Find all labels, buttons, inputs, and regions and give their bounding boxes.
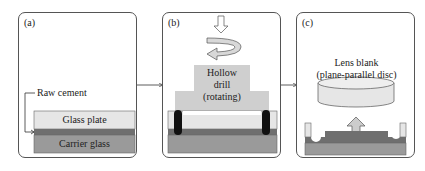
down-arrow-icon xyxy=(214,16,228,33)
carrier-glass xyxy=(168,135,277,153)
carrier-glass xyxy=(305,143,406,155)
cement-residue xyxy=(305,131,406,143)
lens-label-line1: Lens blank xyxy=(297,57,416,69)
raw-cement-layer xyxy=(34,129,135,135)
raw-cement-label: Raw cement xyxy=(37,87,87,99)
panel-c: (c) Lens blank (plane-parallel disc) xyxy=(296,12,415,158)
drill-label-line3: (rotating) xyxy=(175,91,269,103)
panel-b: (b) Hollow drill (rotating) xyxy=(162,12,281,158)
glass-plate-label: Glass plate xyxy=(34,114,135,126)
glass-remnant-left xyxy=(305,123,311,137)
carrier-glass-label: Carrier glass xyxy=(34,138,135,150)
drill-wall-left xyxy=(174,110,182,135)
cement-layer xyxy=(168,129,277,135)
cement-pointer-line xyxy=(25,93,35,132)
panel-a: (a) Raw cement Glass plate Carrier glass xyxy=(18,12,137,158)
rotation-arrow-icon xyxy=(207,38,241,60)
lens-label-line2: (plane-parallel disc) xyxy=(297,69,416,81)
lens-blank-diagram xyxy=(297,13,416,159)
drill-label-line2: drill xyxy=(194,79,250,91)
glass-gap xyxy=(183,111,261,115)
drill-label-line1: Hollow xyxy=(194,67,250,79)
drill-wall-right xyxy=(262,110,270,135)
glass-remnant-right xyxy=(400,123,406,137)
